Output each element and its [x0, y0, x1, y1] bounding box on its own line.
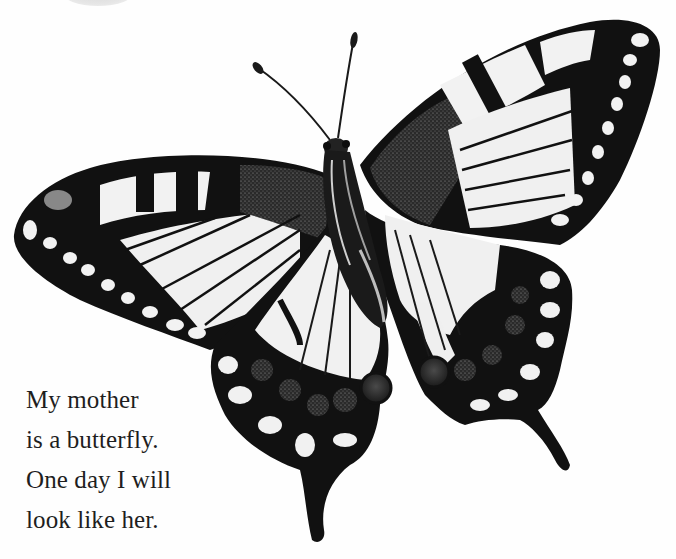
antennae	[250, 32, 358, 140]
caption-line-4: look like her.	[26, 500, 226, 540]
right-hindwing	[365, 210, 572, 470]
right-forewing	[360, 20, 660, 245]
story-caption: My mother is a butterfly. One day I will…	[26, 380, 226, 540]
caption-line-1: My mother	[26, 380, 226, 420]
caption-line-2: is a butterfly.	[26, 420, 226, 460]
storybook-page: My mother is a butterfly. One day I will…	[0, 0, 676, 559]
caption-line-3: One day I will	[26, 460, 226, 500]
